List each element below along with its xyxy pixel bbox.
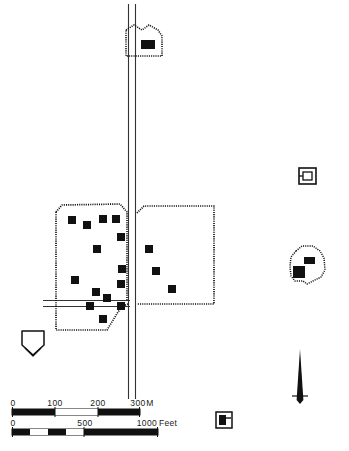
structure-block bbox=[92, 288, 100, 296]
scale-bar-metric: 0 100 200 300 M bbox=[10, 398, 153, 417]
site-plan-map: 0 100 200 300 M 0 500 1000 Feet bbox=[0, 0, 349, 451]
structure-block bbox=[117, 280, 125, 288]
structure-block bbox=[99, 215, 107, 223]
legend-structure-symbol bbox=[216, 412, 232, 428]
structure-block bbox=[117, 233, 125, 241]
scale-tick-imperial-1: 500 bbox=[77, 418, 92, 428]
east-mound-lower bbox=[290, 246, 325, 284]
scale-tick-metric-2: 200 bbox=[90, 398, 105, 408]
structure-block bbox=[93, 245, 101, 253]
main-road bbox=[129, 4, 136, 399]
structure-block bbox=[293, 266, 305, 278]
scale-unit-metric: M bbox=[146, 398, 153, 408]
southwest-pentagon bbox=[22, 331, 44, 356]
structure-block bbox=[86, 302, 94, 310]
scale-bar-imperial: 0 500 1000 Feet bbox=[10, 418, 177, 437]
structure-block bbox=[145, 245, 153, 253]
structure-block bbox=[304, 257, 315, 264]
structure-block bbox=[68, 216, 76, 224]
north-enclosure-structures bbox=[141, 40, 155, 49]
scale-tick-metric-0: 0 bbox=[10, 398, 15, 408]
structure-block bbox=[118, 265, 126, 273]
scale-tick-metric-3: 300 bbox=[130, 398, 145, 408]
map-canvas: 0 100 200 300 M 0 500 1000 Feet bbox=[0, 0, 349, 451]
scale-tick-imperial-0: 0 bbox=[10, 418, 15, 428]
structure-block bbox=[141, 40, 155, 49]
scale-unit-imperial: Feet bbox=[159, 418, 178, 428]
structure-block bbox=[99, 315, 107, 323]
structure-block bbox=[103, 294, 111, 302]
structure-block bbox=[71, 276, 79, 284]
structure-block bbox=[152, 267, 160, 275]
scale-tick-metric-1: 100 bbox=[47, 398, 62, 408]
east-enclosure-structures bbox=[145, 245, 176, 293]
north-arrow-icon bbox=[292, 349, 308, 404]
structure-block bbox=[117, 302, 125, 310]
east-mound-upper bbox=[299, 168, 316, 184]
structure-block bbox=[112, 215, 120, 223]
structure-block bbox=[83, 221, 91, 229]
structure-block bbox=[168, 285, 176, 293]
scale-tick-imperial-2: 1000 bbox=[137, 418, 158, 428]
